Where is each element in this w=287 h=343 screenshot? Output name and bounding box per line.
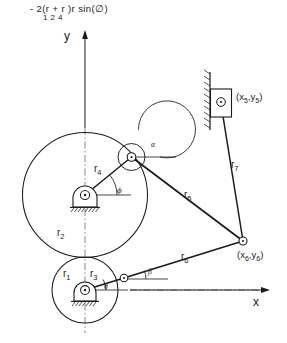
label-r3-subscript: 3 (93, 273, 97, 282)
y-axis (82, 30, 88, 128)
label-r7: r7 (231, 160, 239, 173)
label-r6: r6 (181, 252, 189, 265)
ground-pivot-icon (70, 186, 100, 212)
label-theta: θ (104, 283, 108, 291)
slider-block-icon (211, 89, 232, 117)
phi-arc (110, 175, 117, 195)
alpha-arc (138, 101, 195, 158)
label-r7-subscript: 7 (234, 164, 238, 173)
x-axis-label: x (253, 296, 259, 308)
label-phi: ϕ (117, 186, 122, 195)
point-label-p5-y-sub: 5 (255, 97, 259, 104)
link-r7 (222, 110, 243, 241)
x-axis (130, 287, 270, 293)
label-beta: β (148, 268, 152, 276)
ground-pivot-icon (71, 282, 99, 306)
crank-pin-joint-icon (120, 274, 128, 282)
label-r1-subscript: 1 (66, 273, 70, 282)
y-axis-label: y (64, 30, 70, 42)
label-r1: r1 (63, 269, 71, 282)
mechanism-diagram: - 2(r + r )r sin(∅) 1 2 4 y x r2 r4 r5 r… (0, 0, 287, 343)
wall-hatching-icon (204, 70, 210, 130)
centerline-group (85, 128, 268, 333)
label-r5-subscript: 5 (187, 194, 191, 203)
label-r2: r2 (57, 228, 65, 241)
label-alpha: α (151, 141, 155, 149)
point-label-p6-x-sub: 6 (245, 255, 249, 262)
label-r2-subscript: 2 (60, 232, 64, 241)
label-r6-subscript: 6 (184, 256, 188, 265)
point-label-p5: (x5,y5) (236, 92, 262, 104)
axis-arrow-icon (261, 287, 270, 293)
revolute-joint-icon (239, 237, 247, 245)
formula-expression: - 2(r + r )r sin(∅) (30, 4, 108, 14)
formula-subscripts: 1 2 4 (43, 14, 63, 22)
axis-arrow-icon (82, 30, 88, 39)
point-label-p6: (x6,y6) (237, 250, 263, 262)
label-r4-subscript: 4 (97, 168, 101, 177)
point-label-p5-x-sub: 5 (244, 97, 248, 104)
point-label-p6-y-sub: 6 (256, 255, 260, 262)
label-r4: r4 (94, 164, 102, 177)
diagram-canvas (0, 0, 287, 343)
roller-pin-joint-icon (127, 153, 136, 162)
label-r3: r3 (90, 269, 98, 282)
label-r5: r5 (184, 190, 192, 203)
